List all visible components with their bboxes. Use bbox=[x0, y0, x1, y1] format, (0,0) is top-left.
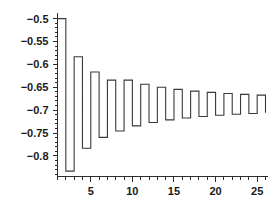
y-tick-label: −0.5 bbox=[27, 13, 49, 25]
x-tick-label: 25 bbox=[251, 185, 263, 197]
step-plot: −0.5−0.55−0.6−0.65−0.7−0.75−0.8 51015202… bbox=[0, 0, 274, 206]
x-tick-label: 10 bbox=[126, 185, 138, 197]
y-tick-label: −0.8 bbox=[27, 150, 49, 162]
y-tick-label: −0.6 bbox=[27, 58, 49, 70]
plot-background bbox=[0, 0, 274, 206]
y-tick-label: −0.55 bbox=[21, 35, 49, 47]
x-tick-label: 20 bbox=[209, 185, 221, 197]
x-tick-label: 5 bbox=[88, 185, 94, 197]
chart-figure: −0.5−0.55−0.6−0.65−0.7−0.75−0.8 51015202… bbox=[0, 0, 274, 206]
x-tick-label: 15 bbox=[168, 185, 180, 197]
y-tick-label: −0.75 bbox=[21, 127, 49, 139]
y-tick-label: −0.7 bbox=[27, 104, 49, 116]
y-tick-label: −0.65 bbox=[21, 81, 49, 93]
